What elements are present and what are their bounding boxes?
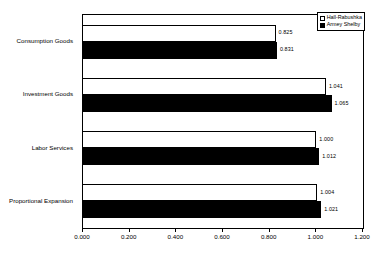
x-tick-label: 0.800 [261, 234, 276, 240]
bar-row: 1.012 [83, 148, 363, 165]
legend-item-armey-shelby[interactable]: Armey Shelby [320, 22, 362, 29]
category-label: Labor Services [0, 129, 78, 167]
bar-row: 1.065 [83, 95, 363, 112]
legend-label: Hall-Rabushka [327, 15, 362, 20]
category-label-text: Consumption Goods [17, 38, 73, 45]
legend-swatch-icon [320, 23, 325, 28]
bar-row: 1.004 [83, 184, 363, 201]
bar-value-label: 1.012 [322, 154, 336, 159]
x-tick-mark [129, 229, 130, 232]
legend-swatch-icon [320, 16, 325, 21]
x-tick-mark [269, 229, 270, 232]
x-tick-mark [175, 229, 176, 232]
bar-value-label: 0.831 [280, 47, 294, 52]
category-axis: Consumption Goods Investment Goods Labor… [0, 15, 78, 228]
x-tick-label: 0.000 [74, 234, 89, 240]
bar-armey-shelby[interactable] [83, 42, 277, 59]
x-tick-label: 1.000 [308, 234, 323, 240]
bar-hall-rabushka[interactable] [83, 131, 316, 148]
bar-hall-rabushka[interactable] [83, 184, 317, 201]
bar-group: 1.004 1.021 [83, 182, 363, 220]
bar-hall-rabushka[interactable] [83, 78, 326, 95]
x-tick-label: 0.200 [121, 234, 136, 240]
category-label-text: Labor Services [32, 145, 73, 152]
bar-value-label: 1.021 [324, 207, 338, 212]
bar-value-label: 1.041 [329, 84, 343, 89]
bar-group: 1.041 1.065 [83, 76, 363, 114]
bar-armey-shelby[interactable] [83, 201, 321, 218]
bar-row: 0.831 [83, 42, 363, 59]
bar-value-label: 1.000 [319, 137, 333, 142]
x-axis-labels: 0.0000.2000.4000.6000.8001.0001.200 [82, 234, 364, 246]
bar-row: 1.041 [83, 78, 363, 95]
bar-group: 1.000 1.012 [83, 129, 363, 167]
category-label: Proportional Expansion [0, 182, 78, 220]
bar-groups: 0.825 0.831 1.041 1.065 1.000 [83, 15, 363, 228]
bar-value-label: 0.825 [279, 30, 293, 35]
bar-hall-rabushka[interactable] [83, 25, 276, 42]
x-tick-label: 0.600 [214, 234, 229, 240]
bar-armey-shelby[interactable] [83, 148, 319, 165]
category-label: Investment Goods [0, 76, 78, 114]
bar-value-label: 1.004 [320, 190, 334, 195]
x-tick-mark [315, 229, 316, 232]
x-tick-mark [82, 229, 83, 232]
bar-value-label: 1.065 [335, 101, 349, 106]
bar-row: 1.000 [83, 131, 363, 148]
x-tick-label: 1.200 [354, 234, 369, 240]
x-tick-mark [362, 229, 363, 232]
legend-label: Armey Shelby [327, 22, 361, 27]
bar-armey-shelby[interactable] [83, 95, 332, 112]
category-label-text: Proportional Expansion [9, 198, 73, 205]
category-label: Consumption Goods [0, 23, 78, 61]
x-tick-mark [222, 229, 223, 232]
bar-chart: Consumption Goods Investment Goods Labor… [0, 0, 386, 259]
category-label-text: Investment Goods [23, 91, 73, 98]
bar-row: 1.021 [83, 201, 363, 218]
legend: Hall-Rabushka Armey Shelby [317, 12, 365, 31]
x-tick-label: 0.400 [168, 234, 183, 240]
